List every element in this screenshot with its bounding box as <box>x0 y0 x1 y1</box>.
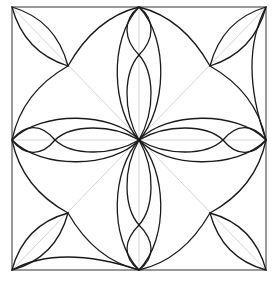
guide-lines <box>12 7 266 270</box>
geometric-rosette-diagram <box>0 0 272 283</box>
